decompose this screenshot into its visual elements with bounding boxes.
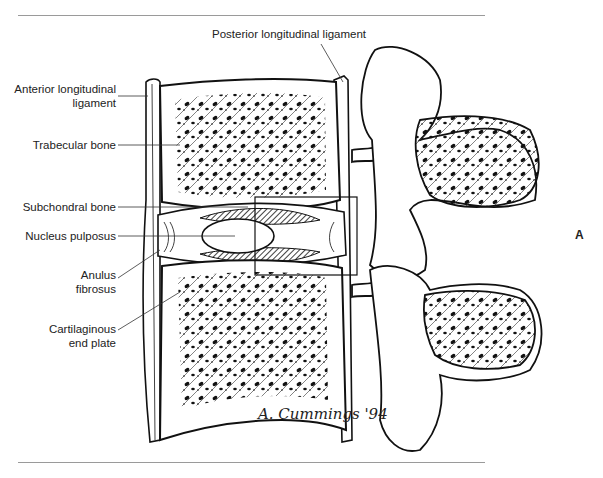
label-posterior-longitudinal-ligament: Posterior longitudinal ligament: [212, 27, 366, 41]
label-subchondral-bone: Subchondral bone: [0, 200, 116, 214]
posterior-elements: [352, 47, 541, 451]
label-anterior-line2: ligament: [0, 96, 116, 110]
label-cartilaginous-line1: Cartilaginous: [0, 322, 116, 336]
label-anulus-line2: fibrosus: [0, 282, 116, 296]
label-nucleus-pulposus: Nucleus pulposus: [0, 229, 116, 243]
label-cartilaginous-end-plate: Cartilaginous end plate: [0, 322, 116, 350]
panel-letter: A: [575, 228, 584, 242]
intervertebral-disc: [158, 203, 346, 265]
label-anterior-line1: Anterior longitudinal: [0, 82, 116, 96]
upper-vertebral-body: [160, 79, 340, 209]
label-anulus-fibrosus: Anulus fibrosus: [0, 268, 116, 296]
label-trabecular-bone: Trabecular bone: [0, 138, 116, 152]
anterior-ligament-drawing: [143, 79, 160, 442]
label-anterior-longitudinal-ligament: Anterior longitudinal ligament: [0, 82, 116, 110]
label-cartilaginous-line2: end plate: [0, 336, 116, 350]
artist-signature: A. Cummings '94: [258, 405, 388, 423]
label-anulus-line1: Anulus: [0, 268, 116, 282]
